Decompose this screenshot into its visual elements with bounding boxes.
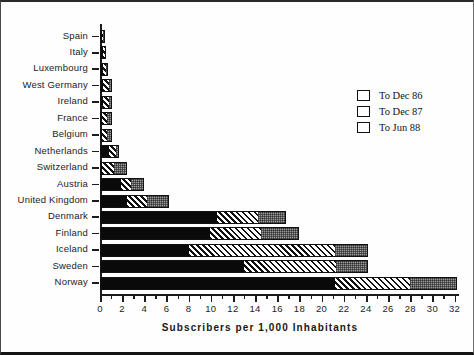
x-axis-tick <box>255 296 257 302</box>
y-axis-tick <box>92 151 99 153</box>
bar-segment <box>100 227 210 240</box>
x-axis-tick-label: 30 <box>427 303 438 314</box>
bar-segment <box>105 46 107 59</box>
x-axis-tick <box>144 296 146 302</box>
bar-row <box>100 30 105 43</box>
legend-swatch-diagonal-hatch <box>357 106 370 117</box>
x-axis-tick-label: 20 <box>316 303 327 314</box>
bar-segment <box>121 178 131 191</box>
x-axis-minor-tick <box>421 296 422 299</box>
x-axis-tick-label: 32 <box>449 303 460 314</box>
y-axis-tick <box>92 167 99 169</box>
plot-area <box>100 30 457 292</box>
bar-segment <box>107 112 113 125</box>
x-axis-minor-tick <box>155 296 156 299</box>
x-axis-tick-label: 12 <box>227 303 238 314</box>
x-axis-tick <box>122 296 124 302</box>
bar-segment <box>217 211 258 224</box>
x-axis-minor-tick <box>377 296 378 299</box>
x-axis-minor-tick <box>266 296 267 299</box>
bar-segment <box>258 211 286 224</box>
bar-segment <box>410 277 457 290</box>
bar-segment <box>335 277 410 290</box>
legend-label: To Jun 88 <box>379 122 420 133</box>
bar-segment <box>100 211 217 224</box>
x-axis-tick <box>455 296 457 302</box>
y-axis-label: West Germany <box>1 80 88 90</box>
x-axis-tick <box>410 296 412 302</box>
legend-swatch-solid-black <box>357 90 370 101</box>
x-axis-minor-tick <box>222 296 223 299</box>
y-axis-label: Ireland <box>1 96 88 106</box>
y-axis-tick <box>92 282 99 284</box>
y-axis-tick <box>92 233 99 235</box>
x-axis-minor-tick <box>244 296 245 299</box>
bar-segment <box>107 129 113 142</box>
y-axis-label: Spain <box>1 31 88 41</box>
bar-segment <box>100 145 109 158</box>
bar-segment <box>109 96 112 109</box>
x-axis-minor-tick <box>200 296 201 299</box>
x-axis-tick <box>166 296 168 302</box>
bar-row <box>100 195 169 208</box>
y-axis-tick <box>92 101 99 103</box>
x-axis-tick <box>299 296 301 302</box>
bar-segment <box>116 145 119 158</box>
y-axis-tick <box>92 216 99 218</box>
y-axis-label: Belgium <box>1 129 88 139</box>
y-axis-tick <box>92 85 99 87</box>
chart-figure: SpainItalyLuxembourgWest GermanyIrelandF… <box>0 0 474 355</box>
x-axis-minor-tick <box>355 296 356 299</box>
x-axis-tick-label: 4 <box>142 303 148 314</box>
bar-row <box>100 63 108 76</box>
x-axis-minor-tick <box>311 296 312 299</box>
x-axis-minor-tick <box>288 296 289 299</box>
bar-segment <box>336 260 368 273</box>
bar-segment <box>114 162 126 175</box>
x-axis-tick <box>211 296 213 302</box>
y-axis-tick <box>92 68 99 70</box>
bar-segment <box>261 227 300 240</box>
bar-segment <box>244 260 336 273</box>
x-axis-minor-tick <box>443 296 444 299</box>
x-axis-tick <box>432 296 434 302</box>
bar-row <box>100 211 286 224</box>
y-axis-label: United Kingdom <box>1 195 88 205</box>
y-axis-tick <box>92 249 99 251</box>
bar-segment <box>100 244 189 257</box>
bar-segment <box>210 227 261 240</box>
bar-segment <box>103 30 105 43</box>
bar-row <box>100 112 112 125</box>
bar-segment <box>109 79 112 92</box>
bar-segment <box>131 178 144 191</box>
bar-segment <box>335 244 368 257</box>
x-axis-minor-tick <box>399 296 400 299</box>
bar-segment <box>102 162 114 175</box>
y-axis-label: Denmark <box>1 211 88 221</box>
y-axis-tick <box>92 184 99 186</box>
bar-row <box>100 277 457 290</box>
x-axis-minor-tick <box>333 296 334 299</box>
x-axis-tick-label: 8 <box>186 303 192 314</box>
y-axis-label: Netherlands <box>1 146 88 156</box>
y-axis-label: Finland <box>1 228 88 238</box>
x-axis-title: Subscribers per 1,000 Inhabitants <box>1 322 473 333</box>
bar-segment <box>127 195 147 208</box>
bar-row <box>100 162 127 175</box>
y-axis-tick <box>92 134 99 136</box>
x-axis-minor-tick <box>111 296 112 299</box>
x-axis-tick <box>100 296 102 302</box>
x-axis-tick-label: 28 <box>405 303 416 314</box>
bar-row <box>100 260 368 273</box>
x-axis-tick-label: 6 <box>164 303 170 314</box>
x-axis-tick-label: 22 <box>338 303 349 314</box>
bar-segment <box>109 145 116 158</box>
legend-item: To Dec 86 <box>357 88 423 102</box>
bar-segment <box>147 195 169 208</box>
y-axis-label: Norway <box>1 277 88 287</box>
y-axis-tick <box>92 36 99 38</box>
y-axis-tick <box>92 266 99 268</box>
x-axis-tick-label: 10 <box>205 303 216 314</box>
x-axis-tick <box>189 296 191 302</box>
bar-row <box>100 129 112 142</box>
